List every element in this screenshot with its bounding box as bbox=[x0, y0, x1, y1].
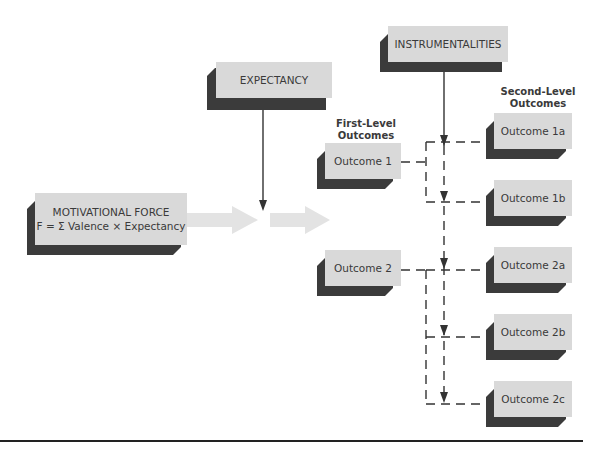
arrowhead-icon bbox=[440, 135, 448, 146]
arrowhead-icon bbox=[440, 191, 448, 202]
force-arrow-2 bbox=[270, 206, 330, 234]
force-arrow-1 bbox=[187, 206, 258, 234]
arrowhead-icon bbox=[259, 200, 267, 211]
arrowhead-icon bbox=[440, 392, 448, 403]
connector-lines bbox=[0, 0, 597, 462]
arrowhead-icon bbox=[440, 325, 448, 336]
arrowhead-icon bbox=[440, 258, 448, 269]
